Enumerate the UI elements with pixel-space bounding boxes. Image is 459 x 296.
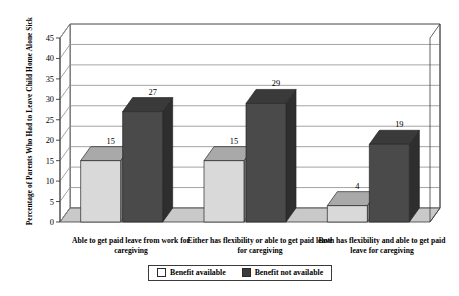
bar-value-label: 15 <box>230 137 238 146</box>
bar-chart: Percentage of Parents Who Had to Leave C… <box>0 0 459 296</box>
legend-swatch-icon <box>157 268 166 277</box>
y-axis-tick-label: 25 <box>46 116 54 125</box>
bar-value-label: 15 <box>106 137 114 146</box>
legend-item-benefit-not-available: Benefit not available <box>242 268 323 277</box>
y-axis-tick-label: 30 <box>46 95 54 104</box>
bar-value-label: 29 <box>272 79 280 88</box>
bar-column <box>369 130 419 222</box>
y-axis-tick-label: 35 <box>46 75 54 84</box>
legend-label: Benefit not available <box>255 268 323 277</box>
legend-label: Benefit available <box>170 268 226 277</box>
y-axis-tick-label: 40 <box>46 54 54 63</box>
bar-value-label: 19 <box>395 120 403 129</box>
bar-column <box>246 89 296 222</box>
y-axis-tick-label: 5 <box>50 198 54 207</box>
y-axis-tick-label: 15 <box>46 157 54 166</box>
legend-swatch-icon <box>242 268 251 277</box>
bar-value-label: 27 <box>148 88 156 97</box>
y-axis-tick-label: 20 <box>46 136 54 145</box>
bar-column <box>123 98 173 222</box>
x-axis-category-label: Able to get paid leave from work for car… <box>57 236 205 256</box>
chart-legend: Benefit available Benefit not available <box>148 265 332 281</box>
y-axis-tick-label: 45 <box>46 34 54 43</box>
y-axis-tick-label: 0 <box>50 218 54 227</box>
legend-item-benefit-available: Benefit available <box>157 268 226 277</box>
y-axis-tick-label: 10 <box>46 177 54 186</box>
x-axis-category-label: Both has flexibility and able to get pai… <box>311 236 453 256</box>
